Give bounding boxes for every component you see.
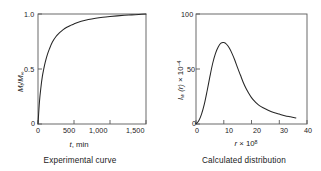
- x-tick-label-0: 0: [195, 127, 199, 134]
- data-curve: [38, 14, 146, 124]
- y-axis-sub-2: ∞: [19, 72, 25, 76]
- x-axis-times: × 10: [237, 139, 255, 148]
- panel-caption-experimental: Experimental curve: [44, 157, 117, 165]
- y-tick-label-1: 1.0: [24, 11, 34, 18]
- x-tick-label-40: 40: [304, 127, 312, 134]
- x-axis-exponent: 8: [255, 139, 258, 145]
- x-axis-label: r × 108: [234, 140, 257, 148]
- x-tick-label-10: 10: [225, 127, 233, 134]
- y-tick-label-50: 50: [187, 66, 195, 73]
- x-tick-label-500: 500: [63, 127, 75, 134]
- y-axis-label: Mt/M∞: [17, 72, 25, 92]
- y-axis-base: I: [176, 98, 185, 100]
- y-axis-slash: /: [16, 82, 25, 84]
- x-axis-unit: , min: [72, 140, 89, 149]
- x-axis-label: t, min: [69, 141, 88, 149]
- x-tick-label-1000: 1,000: [89, 127, 108, 134]
- y-axis-sub-1: t: [19, 84, 25, 85]
- figure-container: 1.0 0.5 0 0 500 1,000 1,500 t, min Mt/M∞…: [0, 0, 321, 171]
- x-tick-label-1500: 1,500: [126, 127, 145, 134]
- y-axis-exponent: −4: [176, 60, 182, 66]
- y-axis-label: Iw (r) × 10−4: [177, 60, 186, 100]
- panel-caption-calculated: Calculated distribution: [202, 157, 286, 165]
- y-tick-label-05: 0.5: [24, 66, 34, 73]
- plot-frame: [38, 14, 146, 124]
- plot-frame: [196, 14, 307, 124]
- chart-panel-calculated-distribution: 100 50 0 0 10 20 30 40 r × 108 Iw (r) × …: [161, 0, 321, 171]
- x-tick-label-0: 0: [36, 127, 40, 134]
- y-axis-sub: w: [179, 94, 185, 98]
- chart-panel-experimental-curve: 1.0 0.5 0 0 500 1,000 1,500 t, min Mt/M∞…: [0, 0, 160, 171]
- y-axis-base-1: M: [16, 86, 25, 93]
- y-axis-base-2: M: [16, 75, 25, 82]
- x-tick-label-20: 20: [253, 127, 261, 134]
- x-tick-label-30: 30: [280, 127, 288, 134]
- y-tick-label-100: 100: [181, 11, 193, 18]
- y-axis-paren: (r): [176, 82, 185, 94]
- data-curve: [196, 43, 296, 124]
- y-axis-times: × 10: [176, 66, 185, 81]
- y-tick-label-0: 0: [31, 120, 35, 127]
